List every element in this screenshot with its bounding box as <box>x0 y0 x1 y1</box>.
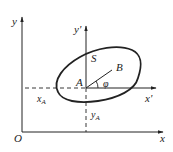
label-B: B <box>116 61 123 73</box>
label-x-prime: x' <box>144 92 153 104</box>
label-x-A: xA <box>36 93 46 106</box>
label-A: A <box>75 76 83 88</box>
label-y: y <box>11 15 17 27</box>
angle-arc-phi <box>96 81 98 88</box>
label-S: S <box>91 52 97 64</box>
label-y-prime: y' <box>73 23 82 35</box>
label-y-A: yA <box>90 109 100 122</box>
label-x: x <box>159 132 165 144</box>
label-phi: φ <box>103 78 109 89</box>
rigid-body-outline <box>56 47 140 102</box>
kinematics-diagram: y y' S B A φ x' xA yA O x <box>0 0 173 152</box>
label-origin-O: O <box>14 132 22 144</box>
